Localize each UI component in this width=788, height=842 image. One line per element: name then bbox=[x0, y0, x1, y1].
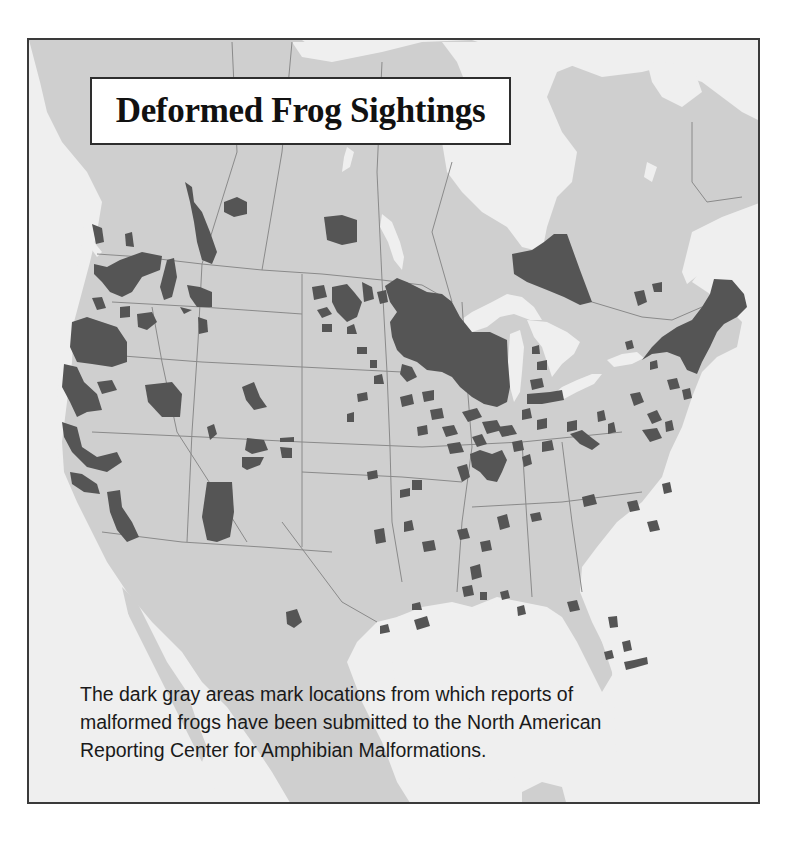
map-frame: Deformed Frog Sightings The dark gray ar… bbox=[27, 38, 760, 804]
sighting-arizona bbox=[202, 482, 234, 542]
title-box: Deformed Frog Sightings bbox=[90, 77, 511, 145]
cutoff-next-line bbox=[230, 832, 750, 842]
caption-line-3: Reporting Center for Amphibian Malformat… bbox=[80, 736, 720, 764]
map-title: Deformed Frog Sightings bbox=[116, 91, 486, 131]
caption-line-2: malformed frogs have been submitted to t… bbox=[80, 708, 720, 736]
map-caption: The dark gray areas mark locations from … bbox=[80, 680, 720, 764]
caption-line-1: The dark gray areas mark locations from … bbox=[80, 680, 720, 708]
